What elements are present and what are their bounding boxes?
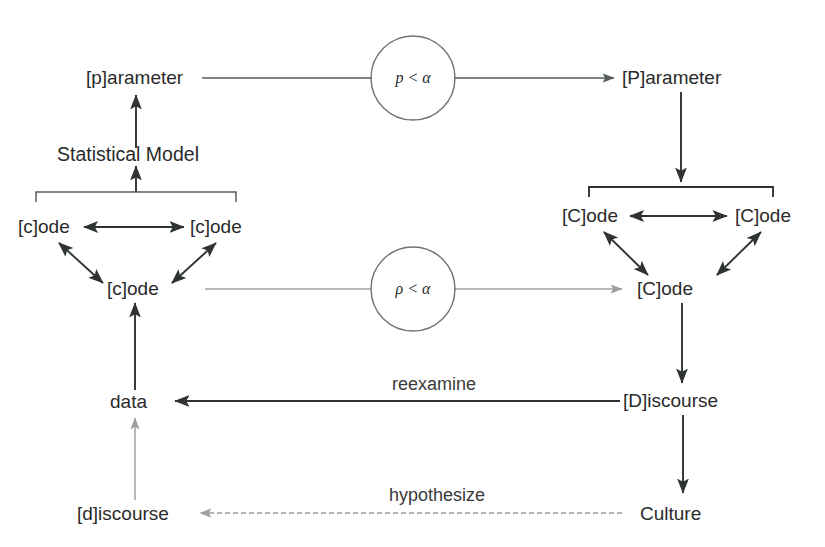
label-bottom-gate: ρ < α bbox=[395, 280, 431, 298]
node-data: data bbox=[110, 391, 147, 412]
label-reexamine: reexamine bbox=[392, 374, 476, 394]
label-hypothesize: hypothesize bbox=[389, 485, 485, 505]
node-upper-discourse: [D]iscourse bbox=[623, 390, 718, 411]
node-lower-parameter: [p]arameter bbox=[86, 67, 184, 88]
edge-lower-code-bottom-right bbox=[172, 243, 216, 283]
edge-upper-code-bottom-right bbox=[717, 232, 761, 275]
node-lower-discourse: [d]iscourse bbox=[77, 503, 169, 524]
node-lower-code-right: [c]ode bbox=[190, 216, 242, 237]
node-upper-code-left: [C]ode bbox=[562, 205, 618, 226]
node-upper-code-bottom: [C]ode bbox=[637, 278, 693, 299]
upper-code-group-bracket bbox=[589, 187, 773, 197]
node-upper-code-right: [C]ode bbox=[735, 205, 791, 226]
diagram-canvas-container: [p]arameter Statistical Model [c]ode [c]… bbox=[0, 0, 825, 547]
node-upper-parameter: [P]arameter bbox=[622, 67, 722, 88]
node-lower-code-bottom: [c]ode bbox=[107, 278, 159, 299]
edge-lower-code-left-bottom bbox=[59, 243, 103, 283]
label-top-gate: p < α bbox=[394, 69, 431, 87]
node-lower-code-left: [c]ode bbox=[18, 216, 70, 237]
edge-upper-code-left-bottom bbox=[604, 232, 648, 275]
lower-code-group-bracket bbox=[36, 192, 236, 202]
node-culture: Culture bbox=[640, 503, 701, 524]
node-statistical-model: Statistical Model bbox=[57, 143, 199, 165]
flow-diagram: [p]arameter Statistical Model [c]ode [c]… bbox=[0, 0, 825, 547]
